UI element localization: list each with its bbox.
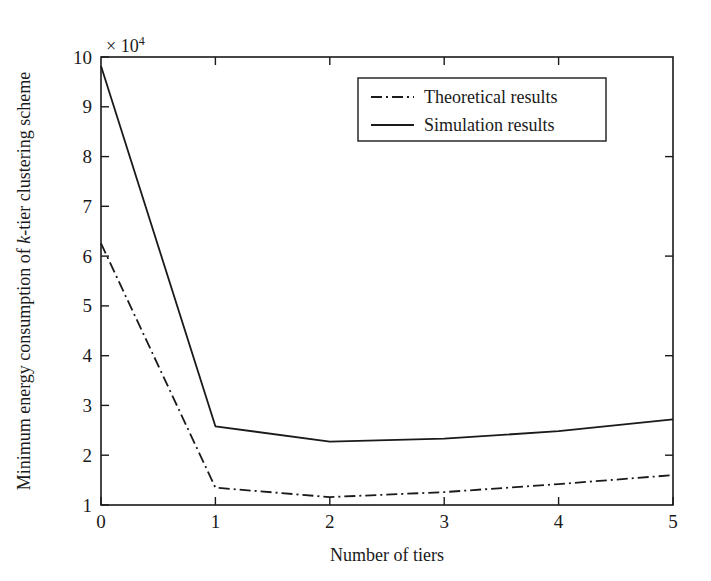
x-tick-labels: 0 1 2 3 4 5 <box>96 511 678 532</box>
y-axis-title: Minimum energy consumption of k-tier clu… <box>14 72 34 491</box>
legend-label-simulation-results: Simulation results <box>424 115 555 135</box>
y-tick-label: 3 <box>83 395 93 416</box>
y-tick-label: 5 <box>83 295 93 316</box>
y-axis-multiplier: × 104 <box>106 34 145 56</box>
y-tick-label: 4 <box>83 345 93 366</box>
x-tick-label: 1 <box>211 511 221 532</box>
y-tick-labels: 1 2 3 4 5 6 7 8 9 10 <box>73 47 93 516</box>
x-tick-label: 4 <box>554 511 564 532</box>
y-tick-label: 10 <box>73 47 92 68</box>
y-tick-label: 9 <box>83 96 93 117</box>
y-tick-label: 2 <box>83 445 93 466</box>
y-axis-title-suffix: -tier clustering scheme <box>14 72 34 236</box>
y-tick-label: 8 <box>83 146 93 167</box>
y-axis-title-prefix: Minimum energy consumption of <box>14 244 34 491</box>
x-tick-label: 0 <box>96 511 106 532</box>
y-tick-label: 7 <box>83 196 93 217</box>
y-tick-label: 1 <box>83 495 93 516</box>
y-tick-label: 6 <box>83 246 93 267</box>
x-tick-label: 3 <box>439 511 449 532</box>
x-tick-label: 5 <box>668 511 678 532</box>
chart-page: 1 2 3 4 5 6 7 8 9 10 0 1 2 3 4 5 × 104 N… <box>0 0 711 581</box>
y-axis-multiplier-exponent: 4 <box>139 34 145 48</box>
legend: Theoretical results Simulation results <box>358 78 606 141</box>
x-axis-title: Number of tiers <box>330 545 444 565</box>
line-chart: 1 2 3 4 5 6 7 8 9 10 0 1 2 3 4 5 × 104 N… <box>0 0 711 581</box>
legend-label-theoretical-results: Theoretical results <box>424 87 557 107</box>
x-tick-label: 2 <box>325 511 335 532</box>
y-axis-multiplier-base: × 10 <box>106 36 139 56</box>
